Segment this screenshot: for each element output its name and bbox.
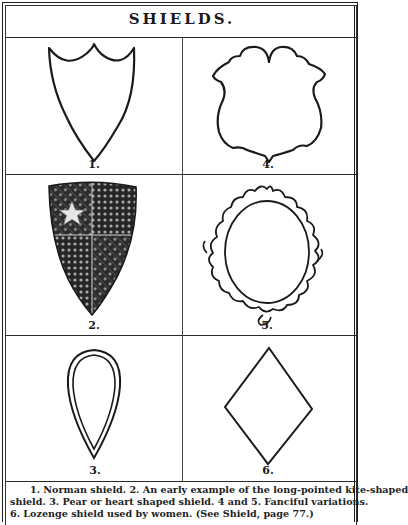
figure-6: 6. bbox=[183, 336, 358, 481]
pear-shield-icon bbox=[6, 336, 182, 481]
figure-number: 6. bbox=[253, 464, 283, 477]
fanciful-shield-icon bbox=[183, 38, 358, 174]
figure-number: 4. bbox=[253, 158, 283, 171]
caption-line-1: 1. Norman shield. 2. An early example of… bbox=[10, 484, 354, 496]
figure-3: 3. bbox=[6, 336, 182, 481]
figure-1: 1. bbox=[6, 38, 182, 174]
page-title: SHIELDS. bbox=[0, 10, 364, 28]
figure-5: 5. bbox=[183, 175, 358, 335]
figure-number: 2. bbox=[79, 319, 109, 332]
figure-4: 4. bbox=[183, 38, 358, 174]
figure-number: 3. bbox=[80, 464, 110, 477]
caption-line-3: 6. Lozenge shield used by women. (See Sh… bbox=[10, 508, 354, 520]
figure-2: 2. bbox=[6, 175, 182, 335]
figure-number: 1. bbox=[79, 158, 109, 171]
cartouche-shield-icon bbox=[183, 175, 358, 335]
kite-shield-decorated-icon bbox=[6, 175, 182, 335]
figure-number: 5. bbox=[252, 319, 282, 332]
lozenge-shield-icon bbox=[183, 336, 358, 481]
caption-divider bbox=[6, 481, 358, 482]
figure-caption: 1. Norman shield. 2. An early example of… bbox=[10, 484, 354, 520]
caption-line-2: shield. 3. Pear or heart shaped shield. … bbox=[10, 496, 354, 508]
norman-shield-icon bbox=[6, 38, 182, 174]
